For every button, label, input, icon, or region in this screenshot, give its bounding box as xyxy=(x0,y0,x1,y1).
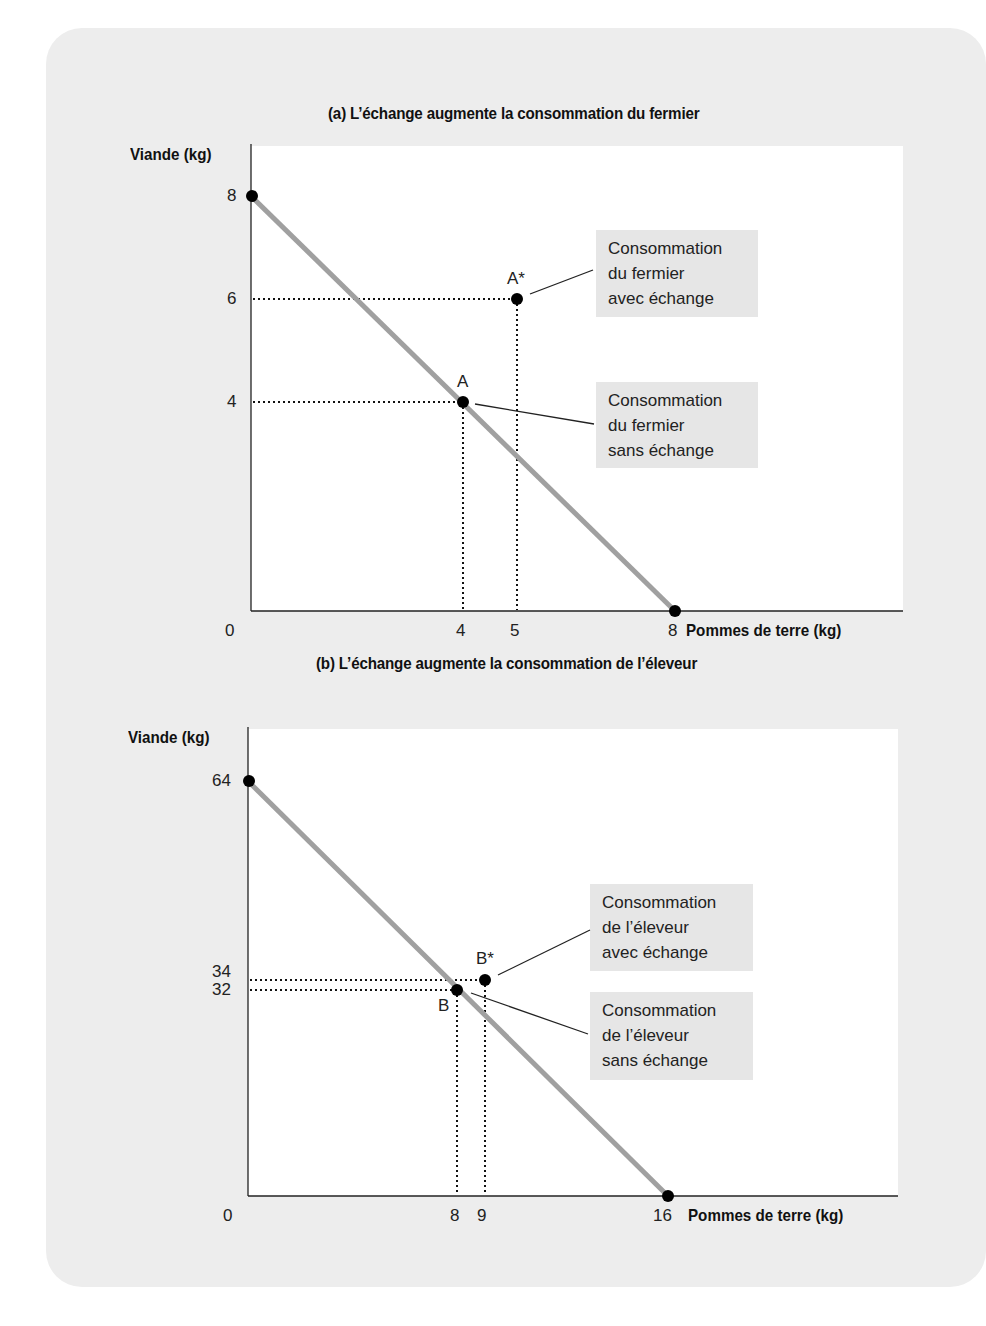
panel-b-point-b xyxy=(451,984,463,996)
panel-a-point-a-star xyxy=(511,293,523,305)
panel-a-axes xyxy=(251,144,903,611)
panel-a-point-intercept-y xyxy=(246,190,258,202)
panel-b-guide-lines xyxy=(250,980,485,1195)
panel-b-point-b-star xyxy=(479,974,491,986)
panel-b-axes xyxy=(248,727,898,1196)
panel-b-point-intercept-x xyxy=(662,1190,674,1202)
panel-a-point-a xyxy=(457,396,469,408)
panel-a-guide-lines xyxy=(253,299,517,610)
panel-b-point-intercept-y xyxy=(243,775,255,787)
panel-a-leader-lines xyxy=(475,270,594,424)
panel-a-point-intercept-x xyxy=(669,605,681,617)
